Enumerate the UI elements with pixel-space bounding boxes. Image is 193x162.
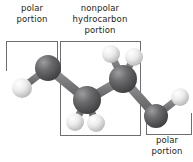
atom-h-h-right xyxy=(171,88,189,106)
atom-c-c4 xyxy=(144,104,168,128)
atom-c-c3 xyxy=(109,65,137,93)
atom-h-h-c2-a xyxy=(66,113,84,131)
molecule-figure: polar portion nonpolar hydrocarbon porti… xyxy=(0,0,193,162)
atom-h-h-left xyxy=(12,78,32,98)
atom-h-h-c2-b xyxy=(87,114,105,132)
atom-c-c2 xyxy=(73,86,101,114)
atom-h-h-c3-a xyxy=(102,45,120,63)
ball-and-stick-molecule xyxy=(0,0,193,162)
atom-h-h-c3-b xyxy=(125,48,143,66)
atom-c-c1 xyxy=(35,55,61,81)
